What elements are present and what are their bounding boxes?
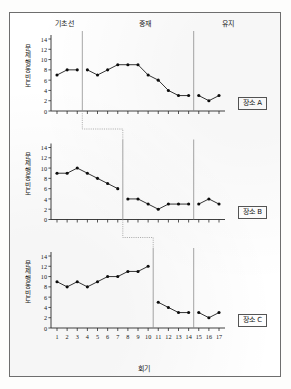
figure-frame: 기초선 중재 유지 문제행동 빈도 문제행동 빈도 문제행동 빈도 장소 A 장… (9, 12, 281, 377)
phase-connector-1 (123, 220, 153, 249)
data-point-panel-1-0-3 (86, 172, 89, 175)
y-tick-label-panel-1: 12 (10, 154, 47, 161)
series-line-panel-0-1 (87, 65, 188, 96)
data-point-panel-2-1-3 (187, 311, 190, 314)
data-point-panel-0-0-2 (76, 68, 79, 71)
data-point-panel-0-1-6 (147, 73, 150, 76)
y-tick-label-panel-2: 8 (10, 283, 47, 290)
data-point-panel-2-0-4 (96, 280, 99, 283)
legend-place-c: 장소 C (238, 314, 267, 327)
y-tick-label-panel-1: 8 (10, 175, 47, 182)
data-point-panel-1-0-4 (96, 177, 99, 180)
y-tick-label-panel-2: 10 (10, 273, 47, 280)
x-axis-title: 회기 (138, 363, 150, 373)
y-tick-label-panel-0: 10 (10, 56, 47, 63)
data-point-panel-0-1-2 (106, 68, 109, 71)
data-point-panel-1-1-4 (167, 203, 170, 206)
data-point-panel-2-1-1 (167, 306, 170, 309)
data-point-panel-2-1-2 (177, 311, 180, 314)
data-point-panel-1-1-2 (147, 203, 150, 206)
data-point-panel-1-2-1 (207, 197, 210, 200)
data-point-panel-2-2-2 (217, 311, 220, 314)
data-point-panel-0-1-5 (136, 63, 139, 66)
data-point-panel-0-0-0 (55, 73, 58, 76)
data-point-panel-0-1-4 (126, 63, 129, 66)
data-point-panel-2-0-3 (86, 285, 89, 288)
data-point-panel-1-0-2 (76, 167, 79, 170)
data-point-panel-0-1-1 (96, 73, 99, 76)
phase-connector-0 (82, 111, 123, 140)
y-tick-label-panel-2: 14 (10, 253, 47, 260)
data-point-panel-0-1-9 (177, 94, 180, 97)
data-point-panel-1-2-0 (197, 203, 200, 206)
legend-place-b: 장소 B (238, 206, 267, 219)
data-point-panel-1-1-0 (126, 197, 129, 200)
data-point-panel-0-2-1 (207, 99, 210, 102)
data-point-panel-0-2-0 (197, 94, 200, 97)
data-point-panel-1-1-6 (187, 203, 190, 206)
y-tick-label-panel-1: 0 (10, 216, 47, 223)
legend-place-a: 장소 A (238, 97, 267, 110)
series-line-panel-2-0 (57, 266, 148, 287)
y-tick-label-panel-2: 0 (10, 325, 47, 332)
data-point-panel-0-0-1 (66, 68, 69, 71)
data-point-panel-0-1-8 (167, 89, 170, 92)
data-point-panel-1-0-0 (55, 172, 58, 175)
data-point-panel-1-0-5 (106, 182, 109, 185)
data-point-panel-2-2-0 (197, 311, 200, 314)
y-tick-label-panel-0: 4 (10, 87, 47, 94)
y-tick-label-panel-1: 6 (10, 185, 47, 192)
figure-page: 기초선 중재 유지 문제행동 빈도 문제행동 빈도 문제행동 빈도 장소 A 장… (0, 0, 291, 389)
series-line-panel-1-0 (57, 168, 118, 189)
data-point-panel-2-0-7 (126, 270, 129, 273)
y-tick-label-panel-1: 4 (10, 196, 47, 203)
y-tick-label-panel-0: 0 (10, 108, 47, 115)
data-point-panel-1-1-3 (157, 208, 160, 211)
y-tick-label-panel-1: 10 (10, 165, 47, 172)
y-tick-label-panel-0: 6 (10, 77, 47, 84)
data-point-panel-2-0-5 (106, 275, 109, 278)
data-point-panel-0-1-10 (187, 94, 190, 97)
data-point-panel-1-1-5 (177, 203, 180, 206)
y-tick-label-panel-1: 2 (10, 206, 47, 213)
data-point-panel-2-0-2 (76, 280, 79, 283)
y-tick-label-panel-0: 14 (10, 36, 47, 43)
y-tick-label-panel-0: 2 (10, 97, 47, 104)
y-tick-label-panel-0: 8 (10, 66, 47, 73)
data-point-panel-0-2-2 (217, 94, 220, 97)
data-point-panel-1-0-6 (116, 187, 119, 190)
data-point-panel-2-1-0 (157, 301, 160, 304)
y-tick-label-panel-2: 6 (10, 294, 47, 301)
data-point-panel-2-0-8 (136, 270, 139, 273)
data-point-panel-0-1-3 (116, 63, 119, 66)
data-point-panel-2-0-1 (66, 285, 69, 288)
series-line-panel-2-1 (158, 302, 188, 312)
y-tick-label-panel-2: 2 (10, 314, 47, 321)
data-point-panel-1-2-2 (217, 203, 220, 206)
data-point-panel-2-0-9 (147, 265, 150, 268)
data-point-panel-2-0-0 (55, 280, 58, 283)
y-tick-label-panel-1: 14 (10, 144, 47, 151)
y-tick-label-panel-2: 4 (10, 304, 47, 311)
y-tick-label-panel-0: 12 (10, 46, 47, 53)
data-point-panel-0-1-0 (86, 68, 89, 71)
data-point-panel-1-1-1 (136, 197, 139, 200)
data-point-panel-0-1-7 (157, 79, 160, 82)
y-tick-label-panel-2: 12 (10, 263, 47, 270)
data-point-panel-2-2-1 (207, 316, 210, 319)
data-point-panel-2-0-6 (116, 275, 119, 278)
x-tick-label-17: 17 (213, 333, 225, 340)
data-point-panel-1-0-1 (66, 172, 69, 175)
